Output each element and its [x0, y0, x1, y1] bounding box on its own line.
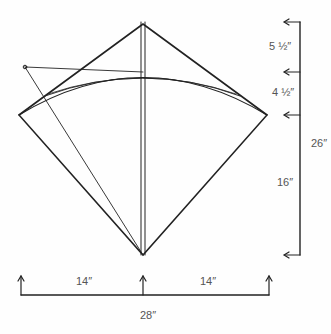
dimension-label-bow: 4 ½″ — [272, 86, 294, 98]
kite-diagram: 5 ½″ 4 ½″ 16″ 26″ 14″ 14″ 28″ — [0, 0, 331, 334]
dimension-label-total-height: 26″ — [311, 137, 327, 149]
dimension-label-right-half: 14″ — [200, 275, 216, 287]
kite-outline — [19, 24, 267, 255]
dimension-label-lower: 16″ — [277, 176, 293, 188]
dimension-label-left-half: 14″ — [76, 275, 92, 287]
dimension-label-top: 5 ½″ — [269, 40, 291, 52]
dimension-label-total-width: 28″ — [140, 309, 156, 321]
bridle-line-bottom — [25, 67, 143, 255]
bowed-spar — [19, 78, 267, 116]
